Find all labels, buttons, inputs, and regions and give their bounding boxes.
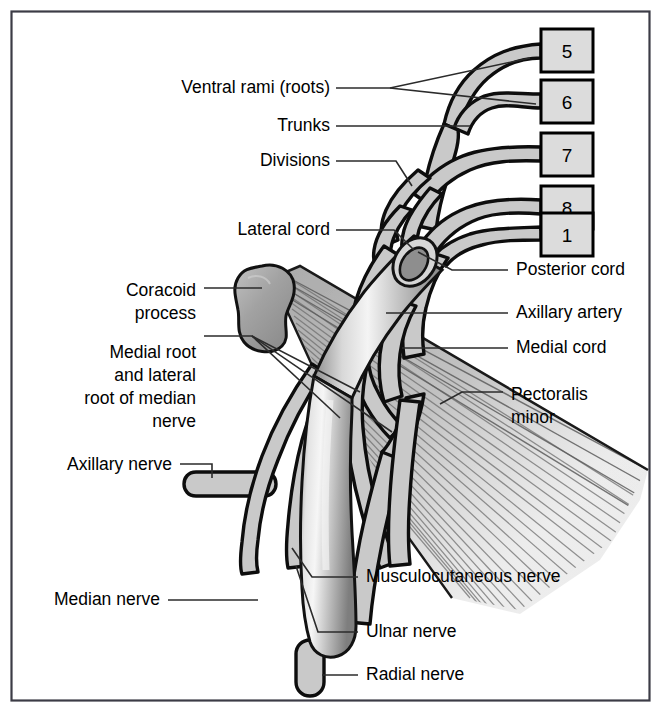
- root-box-c7-label: 7: [562, 145, 573, 166]
- diagram-canvas: 5 6 7 8 1: [0, 0, 663, 716]
- root-number-boxes: 5 6 7 8 1: [541, 29, 593, 256]
- root-box-t1[interactable]: 1: [541, 213, 593, 256]
- label-pectoralis-minor-line1: Pectoralis: [511, 384, 588, 404]
- brachial-plexus-figure: 5 6 7 8 1: [0, 0, 663, 716]
- label-coracoid-process-line1: Coracoid: [126, 280, 196, 300]
- label-ventral-rami: Ventral rami (roots): [181, 77, 330, 97]
- root-box-c7[interactable]: 7: [541, 133, 593, 176]
- label-axillary-nerve: Axillary nerve: [67, 454, 172, 474]
- label-lateral-cord: Lateral cord: [238, 219, 330, 239]
- label-ulnar-nerve: Ulnar nerve: [366, 621, 456, 641]
- label-medial-cord: Medial cord: [516, 337, 606, 357]
- label-median-roots-line2: and lateral: [114, 365, 196, 385]
- label-median-roots-line1: Medial root: [109, 342, 196, 362]
- root-box-c6-label: 6: [562, 92, 573, 113]
- label-musculocutaneous-nerve: Musculocutaneous nerve: [366, 566, 561, 586]
- root-box-c6[interactable]: 6: [541, 80, 593, 123]
- coracoid-process-bone: [235, 265, 294, 352]
- label-radial-nerve: Radial nerve: [366, 664, 464, 684]
- root-box-t1-label: 1: [562, 225, 573, 246]
- label-trunks: Trunks: [277, 115, 330, 135]
- label-divisions: Divisions: [260, 150, 330, 170]
- label-axillary-artery: Axillary artery: [516, 302, 622, 322]
- label-median-nerve: Median nerve: [54, 589, 160, 609]
- label-median-roots-line4: nerve: [152, 411, 196, 431]
- label-posterior-cord: Posterior cord: [516, 259, 625, 279]
- root-box-c5-label: 5: [562, 41, 573, 62]
- label-coracoid-process-line2: process: [135, 303, 197, 323]
- label-median-roots-line3: root of median: [84, 388, 196, 408]
- label-pectoralis-minor-line2: minor: [511, 407, 555, 427]
- root-box-c5[interactable]: 5: [541, 29, 593, 72]
